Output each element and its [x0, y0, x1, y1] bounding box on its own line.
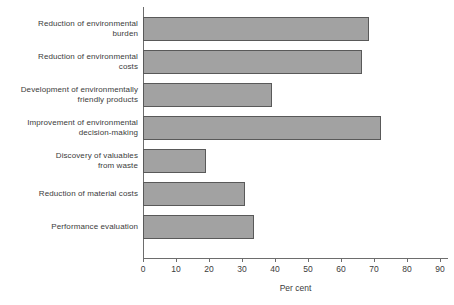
bar [143, 17, 369, 41]
category-label-line: Reduction of environmental [0, 52, 138, 63]
category-label: Improvement of environmentaldecision-mak… [0, 118, 138, 139]
x-tick-label: 80 [392, 264, 422, 274]
x-tick [275, 258, 276, 262]
category-label-line: Development of environmentally [0, 85, 138, 96]
x-tick [209, 258, 210, 262]
category-label: Performance evaluation [0, 222, 138, 233]
category-label-line: Reduction of environmental [0, 19, 138, 30]
category-label-line: burden [0, 29, 138, 40]
x-tick-label: 50 [293, 264, 323, 274]
category-label-line: from waste [0, 161, 138, 172]
x-tick-label: 90 [425, 264, 454, 274]
bar [143, 182, 245, 206]
x-tick-label: 70 [359, 264, 389, 274]
x-axis-title: Per cent [143, 283, 448, 293]
bar [143, 83, 272, 107]
category-label-line: friendly products [0, 95, 138, 106]
x-tick-label: 30 [227, 264, 257, 274]
category-label-line: decision-making [0, 128, 138, 139]
category-label: Reduction of environmentalcosts [0, 52, 138, 73]
x-tick [242, 258, 243, 262]
x-tick-label: 60 [326, 264, 356, 274]
category-label: Development of environmentallyfriendly p… [0, 85, 138, 106]
bar [143, 215, 254, 239]
category-label: Reduction of material costs [0, 189, 138, 200]
x-tick [374, 258, 375, 262]
category-label-line: Reduction of material costs [0, 189, 138, 200]
x-tick [176, 258, 177, 262]
x-tick-label: 10 [161, 264, 191, 274]
x-tick-label: 40 [260, 264, 290, 274]
category-label: Reduction of environmentalburden [0, 19, 138, 40]
x-tick [407, 258, 408, 262]
bar [143, 116, 381, 140]
bar-chart: Reduction of environmentalburdenReductio… [0, 0, 454, 305]
category-label-line: costs [0, 62, 138, 73]
category-label-line: Performance evaluation [0, 222, 138, 233]
category-label-line: Improvement of environmental [0, 118, 138, 129]
x-axis-line [143, 258, 448, 259]
x-tick-label: 20 [194, 264, 224, 274]
x-tick [308, 258, 309, 262]
category-label: Discovery of valuablesfrom waste [0, 151, 138, 172]
category-label-line: Discovery of valuables [0, 151, 138, 162]
x-tick [143, 258, 144, 262]
bar [143, 149, 206, 173]
x-tick [341, 258, 342, 262]
bar [143, 50, 362, 74]
x-tick-label: 0 [128, 264, 158, 274]
x-tick [440, 258, 441, 262]
